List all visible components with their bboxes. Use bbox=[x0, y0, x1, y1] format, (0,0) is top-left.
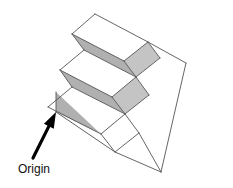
isometric-stepped-block-drawing: Origin bbox=[0, 0, 233, 188]
figure-root: Origin bbox=[0, 0, 233, 188]
origin-label: Origin bbox=[18, 162, 50, 176]
